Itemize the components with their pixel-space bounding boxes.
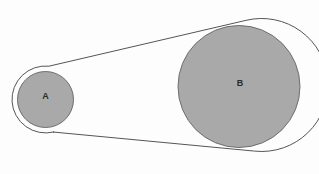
pulley-a-label: A — [42, 91, 49, 100]
belt-pulley-svg — [0, 0, 319, 174]
diagram-canvas: A B — [0, 0, 319, 174]
pulley-b-label: B — [237, 79, 244, 88]
